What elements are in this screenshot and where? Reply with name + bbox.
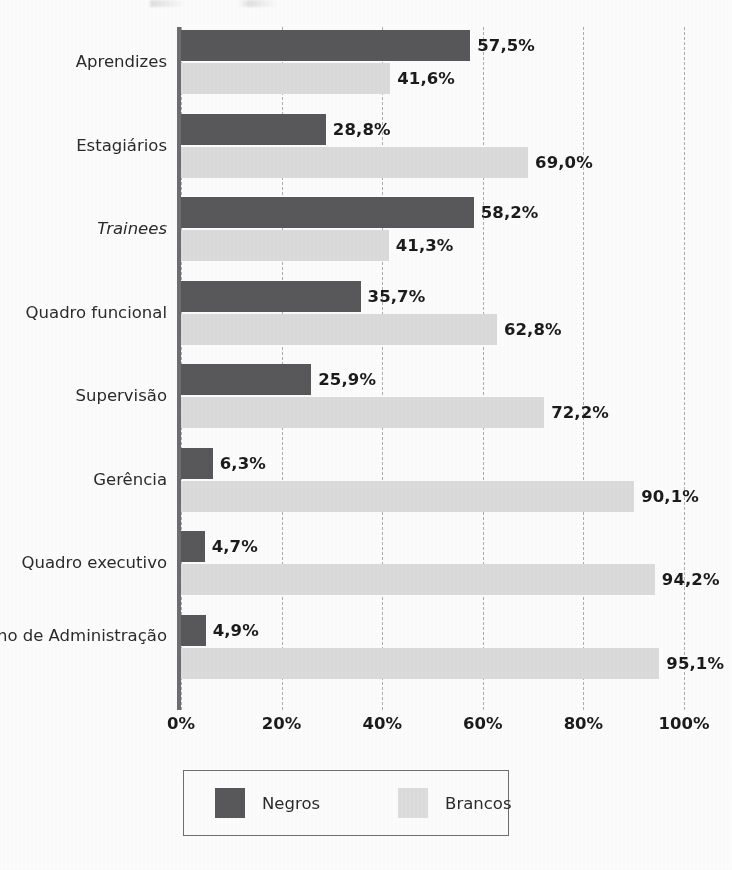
bar-value-label: 4,9% <box>213 615 259 646</box>
bar-value-label: 6,3% <box>220 448 266 479</box>
bar-value-label: 4,7% <box>212 531 258 562</box>
chart-legend: Negros Brancos <box>183 770 509 836</box>
bar-brancos-7[interactable] <box>181 648 659 679</box>
category-label-3: Quadro funcional <box>0 302 167 324</box>
category-label-7: Conselho de Administração <box>0 625 167 647</box>
bar-value-label: 28,8% <box>333 114 391 145</box>
bar-negros-1[interactable] <box>181 114 326 145</box>
bar-value-label: 90,1% <box>641 481 699 512</box>
bar-group: 28,8%69,0% <box>181 111 684 195</box>
legend-item-negros: Negros <box>215 788 320 818</box>
bar-negros-6[interactable] <box>181 531 205 562</box>
category-label-1: Estagiários <box>0 135 167 157</box>
category-label-4: Supervisão <box>0 385 167 407</box>
legend-swatch-negros <box>215 788 245 818</box>
plot-area: 57,5%41,6%28,8%69,0%58,2%41,3%35,7%62,8%… <box>181 27 684 710</box>
bar-value-label: 69,0% <box>535 147 593 178</box>
bar-value-label: 95,1% <box>666 648 724 679</box>
category-label-2: Trainees <box>0 218 167 240</box>
gridline-100 <box>684 27 685 710</box>
bar-group: 35,7%62,8% <box>181 278 684 362</box>
category-label-0: Aprendizes <box>0 51 167 73</box>
bar-negros-0[interactable] <box>181 30 470 61</box>
bar-group: 58,2%41,3% <box>181 194 684 278</box>
bar-negros-3[interactable] <box>181 281 361 312</box>
bar-brancos-0[interactable] <box>181 63 390 94</box>
bar-group: 4,9%95,1% <box>181 612 684 696</box>
bar-value-label: 94,2% <box>662 564 720 595</box>
category-label-5: Gerência <box>0 469 167 491</box>
bar-value-label: 41,3% <box>396 230 454 261</box>
x-tick-label-0: 0% <box>167 714 195 733</box>
bar-value-label: 62,8% <box>504 314 562 345</box>
category-label-6: Quadro executivo <box>0 552 167 574</box>
bar-brancos-1[interactable] <box>181 147 528 178</box>
x-tick-label-80: 80% <box>564 714 604 733</box>
bar-negros-4[interactable] <box>181 364 311 395</box>
bar-value-label: 25,9% <box>318 364 376 395</box>
bar-brancos-6[interactable] <box>181 564 655 595</box>
bar-group: 57,5%41,6% <box>181 27 684 111</box>
bar-value-label: 72,2% <box>551 397 609 428</box>
bar-negros-7[interactable] <box>181 615 206 646</box>
x-tick-label-40: 40% <box>362 714 402 733</box>
bar-value-label: 58,2% <box>481 197 539 228</box>
legend-swatch-brancos <box>398 788 428 818</box>
bar-value-label: 35,7% <box>368 281 426 312</box>
bar-negros-2[interactable] <box>181 197 474 228</box>
grouped-bar-chart: 57,5%41,6%28,8%69,0%58,2%41,3%35,7%62,8%… <box>0 0 732 870</box>
bar-brancos-4[interactable] <box>181 397 544 428</box>
bar-brancos-5[interactable] <box>181 481 634 512</box>
legend-label-brancos: Brancos <box>445 794 511 813</box>
x-tick-label-60: 60% <box>463 714 503 733</box>
bar-brancos-2[interactable] <box>181 230 389 261</box>
bar-group: 6,3%90,1% <box>181 445 684 529</box>
bar-value-label: 57,5% <box>477 30 535 61</box>
legend-label-negros: Negros <box>262 794 320 813</box>
bar-negros-5[interactable] <box>181 448 213 479</box>
bar-brancos-3[interactable] <box>181 314 497 345</box>
x-tick-label-100: 100% <box>659 714 710 733</box>
bar-group: 4,7%94,2% <box>181 528 684 612</box>
x-tick-label-20: 20% <box>262 714 302 733</box>
bar-value-label: 41,6% <box>397 63 455 94</box>
bar-group: 25,9%72,2% <box>181 361 684 445</box>
legend-item-brancos: Brancos <box>398 788 511 818</box>
